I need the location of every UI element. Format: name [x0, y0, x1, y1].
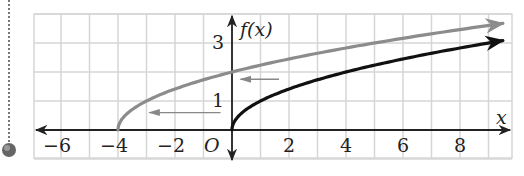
x-tick-label: 2 [283, 134, 295, 156]
x-tick-label: −6 [43, 134, 71, 156]
y-axis-label: f(x) [238, 18, 273, 40]
x-axis-label: x [496, 106, 507, 128]
tick-labels: −6−4−2246813Of(x)x [43, 18, 507, 156]
x-tick-label: 4 [340, 134, 352, 156]
x-tick-label: 8 [454, 134, 466, 156]
origin-label: O [204, 134, 220, 156]
y-tick-label: 3 [212, 31, 224, 53]
x-tick-label: −2 [157, 134, 185, 156]
curve-parent [232, 41, 503, 130]
graph: −6−4−2246813Of(x)x [0, 0, 524, 176]
x-tick-label: −4 [100, 134, 128, 156]
x-tick-label: 6 [397, 134, 409, 156]
y-tick-label: 1 [212, 89, 224, 111]
